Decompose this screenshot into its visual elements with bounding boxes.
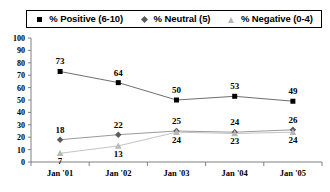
data-point-marker	[116, 80, 121, 85]
y-tick-label: 10	[17, 146, 25, 155]
line-chart: % Positive (6-10) % Neutral (5) % Negati…	[0, 0, 330, 192]
data-label-neutral: 24	[230, 117, 240, 127]
data-label-positive: 49	[288, 86, 298, 96]
data-point-marker	[290, 99, 295, 104]
data-label-positive: 50	[172, 85, 182, 95]
data-label-negative: 24	[288, 135, 298, 145]
data-label-positive: 64	[114, 68, 124, 78]
data-point-marker	[174, 98, 179, 103]
data-label-neutral: 26	[288, 115, 298, 125]
data-label-negative: 23	[230, 136, 240, 146]
plot-area: 1009080706050403020100 73645053491822252…	[0, 0, 330, 192]
data-point-marker	[58, 69, 63, 74]
data-labels: 73645053491822252426713242324	[56, 56, 298, 166]
data-label-negative: 13	[114, 149, 124, 159]
y-axis: 1009080706050403020100	[13, 34, 31, 167]
data-label-positive: 73	[56, 56, 66, 66]
y-tick-label: 40	[17, 108, 25, 117]
y-tick-label: 100	[13, 34, 25, 43]
data-label-neutral: 18	[56, 125, 66, 135]
y-tick-label: 90	[17, 46, 25, 55]
y-tick-label: 20	[17, 133, 25, 142]
x-tick-label: Jan '01	[47, 168, 73, 178]
y-tick-label: 60	[17, 84, 25, 93]
x-tick-label: Jan '05	[280, 168, 306, 178]
x-tick-label: Jan '04	[222, 168, 249, 178]
y-tick-label: 80	[17, 59, 25, 68]
y-tick-label: 0	[21, 158, 25, 167]
data-label-negative: 7	[58, 156, 63, 166]
data-label-neutral: 22	[114, 120, 124, 130]
data-label-negative: 24	[172, 135, 182, 145]
data-label-neutral: 25	[172, 116, 182, 126]
data-point-marker	[115, 132, 121, 138]
y-tick-label: 70	[17, 71, 25, 80]
x-tick-label: Jan '03	[163, 168, 189, 178]
data-point-marker	[57, 136, 63, 142]
category-labels: Jan '01Jan '02Jan '03Jan '04Jan '05	[47, 168, 306, 178]
data-label-positive: 53	[230, 81, 240, 91]
y-tick-label: 30	[17, 121, 25, 130]
y-tick-label: 50	[17, 96, 25, 105]
x-tick-label: Jan '02	[105, 168, 131, 178]
x-axis	[31, 162, 322, 166]
data-point-marker	[232, 94, 237, 99]
